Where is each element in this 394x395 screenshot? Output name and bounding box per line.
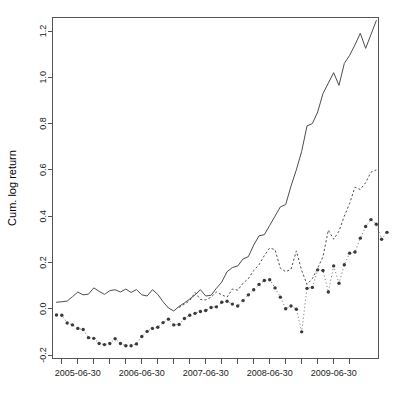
- data-point-marker: [241, 299, 244, 302]
- data-point-marker: [87, 336, 90, 339]
- data-point-marker: [199, 310, 202, 313]
- y-tick-label: 0.6: [38, 164, 48, 177]
- data-point-marker: [364, 225, 367, 228]
- data-point-marker: [305, 287, 308, 290]
- chart-figure: -0.20.00.20.40.60.81.01.22005-06-302006-…: [0, 0, 394, 395]
- data-point-marker: [161, 321, 164, 324]
- data-point-marker: [151, 327, 154, 330]
- data-point-marker: [215, 305, 218, 308]
- data-point-marker: [348, 251, 351, 254]
- data-point-marker: [247, 293, 250, 296]
- data-point-marker: [273, 286, 276, 289]
- x-tick-label: 2005-06-30: [55, 368, 101, 378]
- data-point-marker: [167, 317, 170, 320]
- y-tick-label: 1.0: [38, 71, 48, 84]
- data-point-marker: [343, 263, 346, 266]
- data-point-marker: [257, 283, 260, 286]
- data-point-marker: [60, 313, 63, 316]
- data-point-marker: [327, 290, 330, 293]
- labels-group: -0.20.00.20.40.60.81.01.22005-06-302006-…: [6, 25, 357, 378]
- data-point-marker: [177, 323, 180, 326]
- data-point-marker: [103, 343, 106, 346]
- data-point-marker: [380, 238, 383, 241]
- y-axis-title: Cum. log return: [6, 150, 18, 226]
- data-point-marker: [140, 335, 143, 338]
- data-point-marker: [252, 288, 255, 291]
- data-point-marker: [359, 236, 362, 239]
- data-point-marker: [76, 327, 79, 330]
- y-tick-label: 0.8: [38, 117, 48, 130]
- y-tick-label: 1.2: [38, 25, 48, 38]
- series-line-dashed-line: [179, 170, 376, 308]
- y-tick-label: 0.4: [38, 210, 48, 223]
- y-tick-label: 0.2: [38, 256, 48, 269]
- data-point-marker: [295, 307, 298, 310]
- data-point-marker: [231, 302, 234, 305]
- data-point-marker: [204, 309, 207, 312]
- data-point-marker: [71, 323, 74, 326]
- series-group: [55, 21, 389, 348]
- x-tick-label: 2006-06-30: [119, 368, 165, 378]
- data-point-marker: [289, 304, 292, 307]
- data-point-marker: [156, 326, 159, 329]
- data-point-marker: [193, 312, 196, 315]
- data-point-marker: [300, 330, 303, 333]
- data-point-marker: [279, 295, 282, 298]
- data-point-marker: [263, 279, 266, 282]
- data-point-marker: [92, 337, 95, 340]
- data-point-marker: [284, 307, 287, 310]
- data-point-marker: [385, 231, 388, 234]
- data-point-marker: [268, 278, 271, 281]
- data-point-marker: [369, 218, 372, 221]
- data-point-marker: [55, 313, 58, 316]
- data-point-marker: [97, 342, 100, 345]
- data-point-marker: [316, 268, 319, 271]
- y-tick-label: 0.0: [38, 302, 48, 315]
- data-point-marker: [108, 342, 111, 345]
- data-point-marker: [225, 300, 228, 303]
- data-point-marker: [65, 321, 68, 324]
- x-tick-label: 2009-06-30: [311, 368, 357, 378]
- data-point-marker: [129, 344, 132, 347]
- y-tick-label: -0.2: [38, 347, 48, 363]
- data-point-marker: [113, 337, 116, 340]
- data-point-marker: [119, 342, 122, 345]
- x-tick-label: 2007-06-30: [183, 368, 229, 378]
- data-point-marker: [353, 250, 356, 253]
- data-point-marker: [236, 304, 239, 307]
- data-point-marker: [337, 282, 340, 285]
- data-point-marker: [375, 223, 378, 226]
- data-point-marker: [145, 330, 148, 333]
- data-point-marker: [188, 313, 191, 316]
- x-tick-label: 2008-06-30: [247, 368, 293, 378]
- data-point-marker: [311, 286, 314, 289]
- data-point-marker: [209, 306, 212, 309]
- data-point-marker: [124, 344, 127, 347]
- axes-group: [48, 18, 379, 364]
- data-point-marker: [332, 264, 335, 267]
- data-point-marker: [183, 317, 186, 320]
- data-point-marker: [172, 323, 175, 326]
- data-point-marker: [135, 342, 138, 345]
- data-point-marker: [81, 328, 84, 331]
- chart-canvas: -0.20.00.20.40.60.81.01.22005-06-302006-…: [0, 0, 394, 395]
- series-line-solid-line: [57, 21, 377, 311]
- data-point-marker: [220, 301, 223, 304]
- data-point-marker: [321, 269, 324, 272]
